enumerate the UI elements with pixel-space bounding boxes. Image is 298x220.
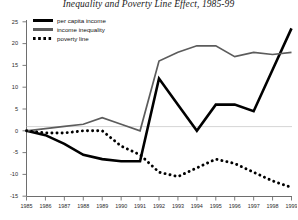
y-tick-label: 20 <box>2 40 18 46</box>
legend-item-per-capita-income: per capita income <box>33 17 106 24</box>
chart-legend: per capita income income inequality pove… <box>33 17 106 42</box>
chart-series-layer <box>27 28 292 187</box>
legend-label: poverty line <box>57 35 89 42</box>
series-line-per-capita-income <box>27 28 292 161</box>
x-tick-label: 1999 <box>280 203 298 209</box>
y-axis-ticks <box>23 22 27 196</box>
legend-item-income-inequality: income inequality <box>33 26 106 33</box>
legend-swatch-solid-black-icon <box>33 17 53 24</box>
x-axis-ticks <box>27 197 292 201</box>
legend-item-poverty-line: poverty line <box>33 35 106 42</box>
y-tick-label: 0 <box>2 128 18 134</box>
y-tick-label: -10 <box>2 171 18 177</box>
series-line-poverty-line <box>27 131 292 188</box>
y-tick-label: 25 <box>2 19 18 25</box>
legend-label: income inequality <box>57 26 105 33</box>
chart-container: Inequality and Poverty Line Effect, 1985… <box>0 0 297 220</box>
y-tick-label: -15 <box>2 193 18 199</box>
y-tick-label: 15 <box>2 62 18 68</box>
legend-swatch-solid-gray-icon <box>33 26 53 33</box>
y-tick-label: 10 <box>2 84 18 90</box>
series-line-income-inequality <box>27 46 292 131</box>
legend-swatch-dotted-black-icon <box>33 35 53 42</box>
legend-label: per capita income <box>57 17 106 24</box>
y-tick-label: 5 <box>2 106 18 112</box>
y-tick-label: -5 <box>2 149 18 155</box>
